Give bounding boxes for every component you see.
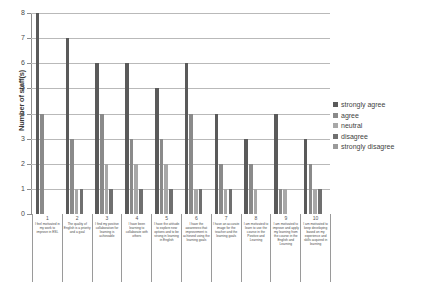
- legend-item[interactable]: neutral: [333, 122, 421, 129]
- category-cell: 6I have the awareness that improvement i…: [182, 214, 212, 282]
- bar[interactable]: [100, 114, 104, 215]
- category-label: I find my positive collaboration for lea…: [94, 222, 121, 238]
- category-cell: 5I have the attitude to explore new opti…: [152, 214, 182, 282]
- bar[interactable]: [139, 189, 143, 214]
- bar[interactable]: [229, 189, 233, 214]
- bar-groups: [32, 13, 330, 214]
- bar-group: [62, 13, 92, 214]
- bar[interactable]: [105, 164, 109, 214]
- y-axis-tick: [27, 88, 31, 89]
- bar[interactable]: [160, 139, 164, 214]
- category-number: 8: [255, 215, 258, 221]
- legend-item[interactable]: strongly disagree: [333, 143, 421, 150]
- legend-item[interactable]: agree: [333, 112, 421, 119]
- category-label: I have the awareness that improvement is…: [183, 222, 210, 242]
- category-number: 3: [106, 215, 109, 221]
- category-cell: 4I have been learning to collaborate wit…: [122, 214, 152, 282]
- bar[interactable]: [274, 114, 278, 215]
- bar[interactable]: [304, 139, 308, 214]
- bar-group: [270, 13, 300, 214]
- bar[interactable]: [194, 189, 198, 214]
- bar[interactable]: [279, 189, 283, 214]
- bar[interactable]: [80, 189, 84, 214]
- bar[interactable]: [164, 164, 168, 214]
- category-label: I have been learning to collaborate with…: [123, 222, 150, 238]
- y-axis-tick: [27, 63, 31, 64]
- category-label: I am motivated to keep developing based …: [302, 222, 329, 247]
- y-axis-tick: [27, 139, 31, 140]
- category-label: I have the attitude to explore new optio…: [153, 222, 180, 242]
- bar[interactable]: [109, 189, 113, 214]
- y-axis-tick: [27, 164, 31, 165]
- bar[interactable]: [125, 63, 129, 214]
- category-cell: 3I find my positive collaboration for le…: [93, 214, 123, 282]
- bar-group: [211, 13, 241, 214]
- bar[interactable]: [36, 13, 40, 214]
- category-number: 7: [225, 215, 228, 221]
- bar[interactable]: [185, 63, 189, 214]
- category-number: 6: [195, 215, 198, 221]
- bar[interactable]: [189, 114, 193, 215]
- legend-label: neutral: [341, 122, 362, 129]
- y-axis-title: Number of staff(s): [17, 61, 26, 141]
- bar[interactable]: [244, 139, 248, 214]
- legend-item[interactable]: strongly agree: [333, 101, 421, 108]
- legend-item[interactable]: disagree: [333, 133, 421, 140]
- bar-group: [92, 13, 122, 214]
- bar[interactable]: [169, 189, 173, 214]
- legend-swatch-icon: [333, 134, 338, 139]
- bar-group: [241, 13, 271, 214]
- y-axis-tick-label: 7: [11, 34, 25, 41]
- category-cell: 2The quality of English is a priority an…: [63, 214, 93, 282]
- bar-group: [300, 13, 330, 214]
- chart-root: Number of staff(s) 012345678 strongly ag…: [0, 0, 424, 284]
- legend-swatch-icon: [333, 144, 338, 149]
- bar[interactable]: [219, 164, 223, 214]
- y-axis-tick: [27, 214, 31, 215]
- bar[interactable]: [215, 114, 219, 215]
- y-axis-tick-label: 0: [11, 210, 25, 217]
- y-axis-tick: [27, 114, 31, 115]
- bar[interactable]: [309, 164, 313, 214]
- category-cell: 8I am motivated to learn to use the cour…: [242, 214, 272, 282]
- category-label: The quality of English is a priority and…: [64, 222, 91, 234]
- bar-group: [121, 13, 151, 214]
- bar[interactable]: [249, 164, 253, 214]
- legend-label: strongly disagree: [341, 143, 394, 150]
- bar[interactable]: [95, 63, 99, 214]
- bar[interactable]: [155, 88, 159, 214]
- chart-legend: strongly agreeagreeneutraldisagreestrong…: [333, 101, 421, 154]
- legend-label: strongly agree: [341, 101, 385, 108]
- legend-label: disagree: [341, 133, 368, 140]
- category-number: 5: [165, 215, 168, 221]
- category-number: 10: [313, 215, 319, 221]
- plot-area: 012345678: [31, 13, 330, 214]
- y-axis-tick-label: 5: [11, 84, 25, 91]
- y-axis-tick-label: 1: [11, 185, 25, 192]
- category-axis-table: 1I feel motivated in my work to improve …: [32, 214, 331, 282]
- bar[interactable]: [283, 189, 287, 214]
- legend-swatch-icon: [333, 102, 338, 107]
- category-number: 1: [46, 215, 49, 221]
- category-number: 4: [135, 215, 138, 221]
- bar[interactable]: [313, 189, 317, 214]
- bar-group: [151, 13, 181, 214]
- bar[interactable]: [75, 189, 79, 214]
- bar[interactable]: [40, 114, 44, 215]
- y-axis-tick-label: 6: [11, 59, 25, 66]
- bar[interactable]: [199, 189, 203, 214]
- legend-swatch-icon: [333, 123, 338, 128]
- y-axis-tick: [27, 38, 31, 39]
- y-axis-tick: [27, 13, 31, 14]
- bar[interactable]: [318, 189, 322, 214]
- y-axis-tick-label: 8: [11, 9, 25, 16]
- bar[interactable]: [70, 139, 74, 214]
- legend-label: agree: [341, 112, 359, 119]
- legend-swatch-icon: [333, 113, 338, 118]
- bar[interactable]: [66, 38, 70, 214]
- category-label: I am motivated to improve and apply my l…: [272, 222, 299, 247]
- bar[interactable]: [130, 139, 134, 214]
- bar[interactable]: [254, 189, 258, 214]
- bar[interactable]: [224, 189, 228, 214]
- bar[interactable]: [134, 164, 138, 214]
